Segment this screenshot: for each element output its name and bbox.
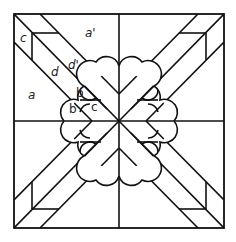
label-c-center: c xyxy=(91,101,98,113)
label-b-upper: b xyxy=(76,87,84,99)
label-d-prime: d' xyxy=(68,59,79,71)
quadrant-top-left xyxy=(14,14,119,121)
label-d: d xyxy=(51,66,59,78)
label-a-prime: a' xyxy=(85,27,96,39)
quadrant-top-right xyxy=(119,14,224,121)
label-c-corner: c xyxy=(20,32,27,44)
quadrant-bottom-left xyxy=(14,121,119,228)
quilt-block-diagram xyxy=(0,0,236,242)
label-a: a xyxy=(28,89,35,101)
label-b-lower: b xyxy=(69,103,77,115)
quadrant-bottom-right xyxy=(119,121,224,228)
